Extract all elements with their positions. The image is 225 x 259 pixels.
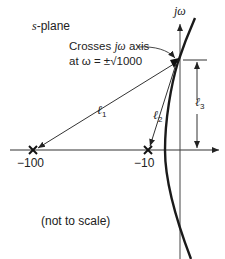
annotation-line-2: at ω = ±√1000 (69, 56, 142, 68)
label-l1: ℓ1 (97, 104, 106, 119)
annotation-line-1: Crosses jω axis (69, 41, 149, 53)
s-plane-diagram (0, 0, 225, 259)
vector-l1 (38, 62, 177, 148)
label-l2: ℓ2 (153, 109, 162, 124)
pole-label-neg10: −10 (134, 157, 154, 169)
pole-label-neg100: −100 (17, 157, 44, 169)
s-plane-title: s-plane (32, 20, 70, 32)
label-l3: ℓ3 (195, 96, 204, 111)
not-to-scale-note: (not to scale) (41, 215, 110, 227)
jw-axis-label: jω (174, 5, 186, 17)
